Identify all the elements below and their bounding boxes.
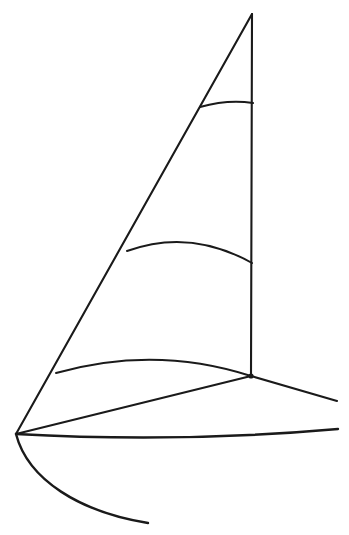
sailboat-drawing-canvas [0, 0, 349, 535]
mast-base-joint [248, 373, 253, 378]
paper-background [0, 0, 349, 535]
mast-line [251, 14, 252, 376]
sailboat-illustration [0, 0, 349, 535]
